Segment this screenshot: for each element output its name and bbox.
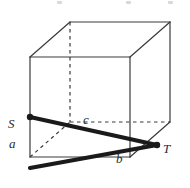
vertex-label-T: T [163, 142, 170, 155]
edge-label-c: c [83, 113, 89, 126]
edge-label-a: a [9, 137, 16, 150]
edge-connect-top-left [30, 22, 70, 57]
point-S-dot [27, 114, 33, 120]
cube-diagram-svg [0, 0, 190, 188]
cube-hidden-edges [30, 22, 170, 157]
path-segments [30, 117, 157, 168]
path-S-to-T [30, 117, 157, 145]
edge-label-b: b [116, 152, 123, 165]
hidden-edge-diagonal-floor [30, 122, 70, 157]
vertex-label-S: S [8, 117, 15, 130]
point-T-dot [154, 142, 160, 148]
cube-solid-edges [30, 22, 170, 157]
edge-connect-top-right [130, 22, 170, 57]
geometry-figure: S a c b T [0, 0, 190, 188]
